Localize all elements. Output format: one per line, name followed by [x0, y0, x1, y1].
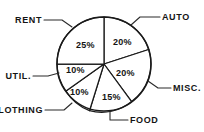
category-label-misc: MISC.	[173, 83, 201, 93]
slice-value-food: 15%	[102, 92, 121, 102]
leader-line-food	[110, 111, 128, 120]
leader-line-auto	[131, 17, 160, 25]
leader-line-misc	[148, 81, 171, 88]
pie-chart-figure: 20% 20% 15% 10% 10% 25% AUTO MISC. FOOD …	[0, 0, 204, 132]
category-label-clothing: CLOTHING	[0, 105, 43, 115]
leader-line-clothing	[45, 103, 72, 110]
pie-chart-svg: 20% 20% 15% 10% 10% 25% AUTO MISC. FOOD …	[0, 0, 204, 132]
leader-line-util	[33, 73, 59, 76]
slice-value-util: 10%	[66, 65, 85, 75]
category-label-auto: AUTO	[162, 12, 190, 22]
category-label-util: UTIL.	[6, 71, 32, 81]
slice-value-auto: 20%	[113, 37, 132, 47]
leader-line-rent	[44, 20, 72, 27]
slice-value-clothing: 10%	[70, 87, 89, 97]
slice-value-rent: 25%	[76, 40, 95, 50]
category-label-rent: RENT	[15, 15, 42, 25]
category-label-food: FOOD	[130, 115, 158, 125]
slice-value-misc: 20%	[116, 68, 135, 78]
